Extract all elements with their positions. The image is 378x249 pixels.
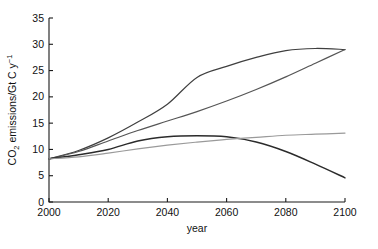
y-axis-title-mid: emissions/Gt C y: [6, 62, 18, 145]
x-tick-label: 2060: [215, 206, 239, 218]
data-series-group: [49, 48, 345, 177]
figure-container: 05101520253035 200020202040206020802100 …: [0, 0, 378, 249]
y-tick-label: 15: [32, 117, 44, 129]
y-tick-label: 5: [38, 169, 44, 181]
y-axis-title: CO2 emissions/Gt C y−1: [5, 55, 21, 166]
x-tick-label: 2040: [156, 206, 180, 218]
x-tick-label: 2080: [274, 206, 298, 218]
x-axis-tick-labels: 200020202040206020802100: [37, 206, 357, 218]
y-axis-tick-labels: 05101520253035: [32, 12, 44, 208]
y-tick-label: 10: [32, 143, 44, 155]
y-tick-label: 30: [32, 38, 44, 50]
y-axis-title-superscript: −1: [5, 55, 14, 64]
y-axis-title-pre: CO: [6, 150, 18, 166]
x-tick-label: 2020: [97, 206, 121, 218]
axis-spines: [49, 18, 345, 202]
co2-emissions-line-chart: 05101520253035 200020202040206020802100 …: [0, 0, 378, 249]
x-tick-label: 2100: [333, 206, 357, 218]
plot-axes: [49, 18, 345, 202]
x-axis-ticks: [49, 198, 345, 202]
x-axis-title: year: [187, 222, 208, 234]
y-tick-label: 35: [32, 12, 44, 24]
x-tick-label: 2000: [37, 206, 61, 218]
svg-text:CO2 emissions/Gt C y−1: CO2 emissions/Gt C y−1: [5, 55, 21, 166]
y-tick-label: 25: [32, 64, 44, 76]
y-axis-ticks: [49, 18, 53, 202]
y-tick-label: 20: [32, 90, 44, 102]
